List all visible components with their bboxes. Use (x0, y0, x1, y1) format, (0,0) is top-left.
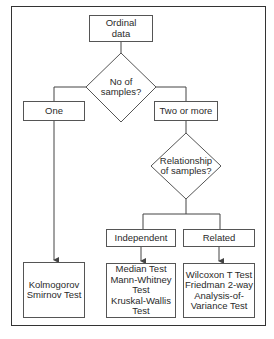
result-related-line-2: Friedman 2-way (185, 280, 253, 291)
branch-related: Related (183, 229, 255, 247)
start-node-ordinal-data: Ordinal data (89, 15, 153, 42)
branch-two-or-more: Two or more (154, 101, 218, 121)
result-one-line-2: Smirnov Test (27, 290, 82, 301)
decision-relationship-of-samples: Relationship of samples? (148, 149, 224, 183)
result-independent-tests: Median Test Mann-Whitney Test Kruskal-Wa… (106, 263, 176, 318)
start-node-line-1: Ordinal (106, 18, 137, 29)
result-related-tests: Wilcoxon T Test Friedman 2-way Analysis-… (183, 263, 255, 318)
branch-related-label: Related (203, 233, 236, 244)
branch-one-label: One (45, 106, 63, 117)
result-related-line-4: Variance Test (191, 301, 248, 312)
decision-relationship-line-2: of samples? (160, 166, 211, 177)
branch-two-or-more-label: Two or more (160, 106, 213, 117)
decision-number-of-samples: No of samples? (86, 70, 156, 104)
branch-independent: Independent (106, 229, 176, 247)
branch-one: One (23, 101, 85, 121)
start-node-line-2: data (112, 29, 131, 40)
result-independent-line-5: Test (132, 306, 149, 317)
result-kolmogorov-smirnov: Kolmogorov Smirnov Test (23, 262, 85, 318)
branch-independent-label: Independent (115, 233, 168, 244)
decision-samples-line-2: samples? (101, 87, 142, 98)
